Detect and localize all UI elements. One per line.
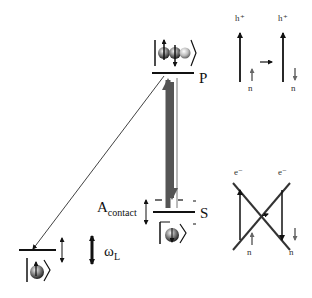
a-contact-main: A xyxy=(97,199,108,215)
electron-exchange-panel xyxy=(233,183,295,250)
omega-main: ω xyxy=(104,243,114,259)
p-level-label: P xyxy=(199,71,207,86)
excitation-arrow xyxy=(168,78,177,208)
top-left-carrier-label: h⁺ xyxy=(235,14,245,23)
top-left-nucleus-label: n xyxy=(248,84,253,93)
ground-ket-icon xyxy=(27,258,50,282)
emission-arrow xyxy=(33,76,164,249)
omega-sub: L xyxy=(114,251,120,262)
omega-l-label: ωL xyxy=(104,243,120,259)
bottom-right-nucleus-label: n xyxy=(289,248,294,257)
a-contact-label: Acontact xyxy=(97,199,137,215)
ground-level xyxy=(19,238,62,262)
top-right-carrier-label: h⁺ xyxy=(278,14,288,23)
hole-spin-flip-panel xyxy=(240,33,295,82)
bottom-left-carrier-label: e⁻ xyxy=(234,168,243,177)
a-contact-sub: contact xyxy=(108,207,137,218)
energy-level-diagram xyxy=(0,0,312,298)
s-level xyxy=(153,200,196,224)
bottom-left-nucleus-label: n xyxy=(247,248,252,257)
top-right-nucleus-label: n xyxy=(291,84,296,93)
p-ket-icon xyxy=(155,40,196,66)
s-level-label: S xyxy=(200,206,208,221)
bottom-right-carrier-label: e⁻ xyxy=(278,168,287,177)
s-ket-icon xyxy=(160,222,186,244)
